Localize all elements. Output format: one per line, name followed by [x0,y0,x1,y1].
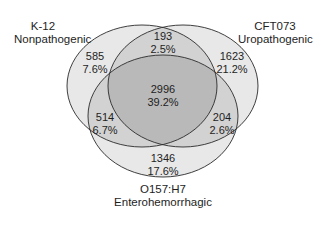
region-count: 585 [80,50,110,63]
set-name: CFT073 [238,20,312,33]
region-percent: 7.6% [80,63,110,76]
set-subtitle: Nonpathogenic [14,33,72,46]
set-label-cft073: CFT073 Uropathogenic [238,20,312,46]
region-percent: 2.5% [148,43,178,56]
region-k12-cft073: 193 2.5% [148,30,178,55]
region-k12-only: 585 7.6% [80,50,110,75]
region-percent: 21.2% [212,63,252,76]
region-percent: 39.2% [145,96,181,109]
set-label-o157: O157:H7 Enterohemorrhagic [113,183,213,209]
region-count: 2996 [145,83,181,96]
region-cft073-only: 1623 21.2% [212,50,252,75]
region-count: 1346 [145,152,181,165]
region-o157-only: 1346 17.6% [145,152,181,177]
region-count: 193 [148,30,178,43]
set-name: K-12 [14,20,72,33]
region-cft073-o157: 204 2.6% [207,111,237,136]
region-count: 1623 [212,50,252,63]
region-count: 514 [90,111,120,124]
region-percent: 6.7% [90,124,120,137]
region-percent: 2.6% [207,124,237,137]
set-name: O157:H7 [113,183,213,196]
region-k12-o157: 514 6.7% [90,111,120,136]
set-subtitle: Uropathogenic [238,33,312,46]
set-label-k12: K-12 Nonpathogenic [14,20,72,46]
region-percent: 17.6% [145,165,181,178]
set-subtitle: Enterohemorrhagic [113,196,213,209]
region-count: 204 [207,111,237,124]
region-all-three: 2996 39.2% [145,83,181,108]
